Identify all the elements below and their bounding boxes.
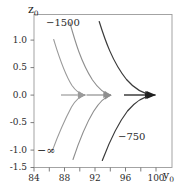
y-tick-label-1: 1.0 <box>2 36 27 45</box>
y-tick-label-6: -1.5 <box>2 163 27 172</box>
x-tick-label-2: 88 <box>55 174 75 183</box>
y-tick-label-2: 0.5 <box>2 63 27 72</box>
curve-lower-3 <box>102 95 152 160</box>
curve-lower-2 <box>73 95 111 159</box>
x-tick-label-4: 96 <box>116 174 136 183</box>
curve-annotation-minus-infinity: −∞ <box>37 145 55 156</box>
curve-upper-2 <box>70 23 111 95</box>
curve-annotation-minus-1500: −1500 <box>46 18 80 28</box>
phase-plane-figure: z0 y0 1.0 0.5 0.0 -0.5 -1.0 -1.5 84 88 9… <box>0 0 185 190</box>
x-axis-ticks <box>34 168 156 172</box>
x-tick-label-3: 92 <box>85 174 105 183</box>
curve-upper-1 <box>54 40 85 95</box>
y-axis-title: z0 <box>28 4 39 19</box>
y-tick-label-5: -1.0 <box>2 146 27 155</box>
curve-upper-3 <box>99 22 152 95</box>
curve-annotation-minus-750: −750 <box>118 132 145 142</box>
y-tick-label-4: -0.5 <box>2 118 27 127</box>
y-axis-ticks <box>31 40 35 167</box>
x-tick-label-5: 100 <box>144 174 168 183</box>
y-tick-label-3: 0.0 <box>2 91 27 100</box>
phase-plane-plot <box>0 0 185 190</box>
curve-lower-1 <box>52 95 84 151</box>
x-tick-label-1: 84 <box>24 174 44 183</box>
